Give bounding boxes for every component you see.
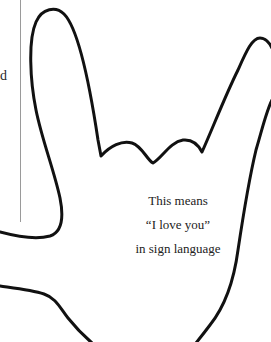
caption-line-1: This means [118, 189, 238, 213]
figure-caption: This means “I love you” in sign language [118, 189, 238, 261]
caption-line-2: “I love you” [118, 213, 238, 237]
caption-line-3: in sign language [118, 237, 238, 261]
document-page: d This means “I love you” in sign langua… [0, 0, 271, 342]
ily-hand-outline-icon [0, 0, 271, 342]
